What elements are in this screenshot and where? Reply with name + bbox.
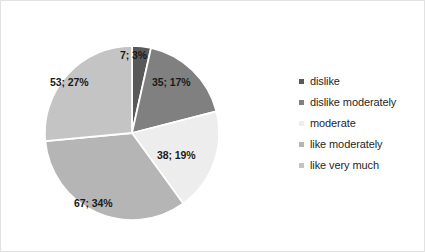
pie-data-label-dislike-moderately: 35; 17% bbox=[152, 77, 190, 88]
legend-item-moderate[interactable]: moderate bbox=[299, 113, 421, 134]
pie-slice-group bbox=[45, 46, 219, 220]
legend-item-like-very-much[interactable]: like very much bbox=[299, 155, 421, 176]
pie-data-label-like-moderately: 67; 34% bbox=[74, 198, 112, 209]
legend-swatch-icon bbox=[299, 142, 304, 147]
pie-data-label-moderate: 38; 19% bbox=[157, 150, 195, 161]
pie-slice[interactable] bbox=[45, 46, 132, 141]
pie-chart-plot-area: 7; 3% 35; 17% 38; 19% 67; 34% 53; 27% di… bbox=[1, 1, 425, 252]
legend-item-like-moderately[interactable]: like moderately bbox=[299, 134, 421, 155]
legend-swatch-icon bbox=[299, 100, 304, 105]
legend-swatch-icon bbox=[299, 163, 304, 168]
legend-item-label: like very much bbox=[310, 155, 379, 176]
legend-swatch-icon bbox=[299, 121, 304, 126]
legend-item-label: dislike bbox=[310, 71, 340, 92]
pie-data-label-dislike: 7; 3% bbox=[120, 50, 147, 61]
legend-item-dislike-moderately[interactable]: dislike moderately bbox=[299, 92, 421, 113]
chart-frame: 7; 3% 35; 17% 38; 19% 67; 34% 53; 27% di… bbox=[0, 0, 425, 252]
legend-item-label: like moderately bbox=[310, 134, 382, 155]
pie-chart-svg bbox=[44, 45, 220, 221]
legend-swatch-icon bbox=[299, 79, 304, 84]
legend-item-label: dislike moderately bbox=[310, 92, 396, 113]
legend-item-label: moderate bbox=[310, 113, 356, 134]
legend-item-dislike[interactable]: dislike bbox=[299, 71, 421, 92]
pie-data-label-like-very-much: 53; 27% bbox=[50, 77, 88, 88]
chart-legend: dislike dislike moderately moderate like… bbox=[299, 71, 421, 176]
